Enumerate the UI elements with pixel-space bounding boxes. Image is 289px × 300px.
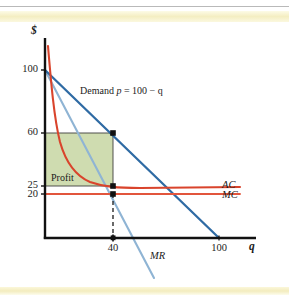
marker-demand-point <box>110 130 116 136</box>
y-tick-label-20: 20 <box>15 188 38 199</box>
demand-equation-variable: p <box>116 85 121 96</box>
y-axis-label: $ <box>31 24 37 36</box>
demand-equation-body: = 100 − q <box>124 85 163 96</box>
y-tick-label-100: 100 <box>15 63 38 74</box>
economics-chart: $ q 100 60 25 20 40 100 Demand p = 100 −… <box>0 22 289 284</box>
demand-label: Demand p = 100 − q <box>80 85 163 96</box>
marginal-revenue-label: MR <box>150 250 165 261</box>
x-tick-label-40: 40 <box>103 242 123 253</box>
decorative-band-bottom <box>0 287 289 295</box>
x-tick-label-100: 100 <box>208 242 230 253</box>
decorative-band-top <box>0 11 289 22</box>
profit-label: Profit <box>51 172 74 183</box>
demand-label-text: Demand <box>80 85 114 96</box>
marker-average-cost-point <box>110 183 116 189</box>
marginal-cost-label: MC <box>222 189 238 200</box>
x-axis-label: q <box>249 240 255 252</box>
marker-marginal-cost-point <box>110 191 116 197</box>
figure-page: $ q 100 60 25 20 40 100 Demand p = 100 −… <box>0 0 289 300</box>
chart-canvas <box>0 22 289 284</box>
page-rule <box>0 6 289 7</box>
marker-quantity-point <box>111 235 116 240</box>
y-tick-label-60: 60 <box>15 126 38 137</box>
